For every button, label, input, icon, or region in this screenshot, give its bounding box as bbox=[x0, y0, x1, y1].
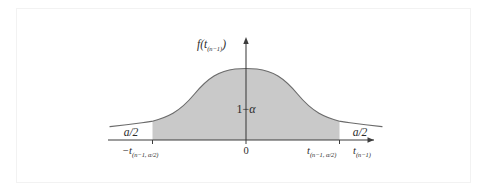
left-critical-value-label: −t(n−1, α/2) bbox=[122, 145, 159, 159]
y-axis-label-close: ) bbox=[221, 38, 226, 51]
left-critical-subscript: (n−1, α/2) bbox=[132, 151, 158, 159]
x-axis-arrow-icon bbox=[368, 137, 375, 142]
y-axis-label: f(t(n−1)) bbox=[197, 38, 226, 53]
figure-root: f(t(n−1)) t(n−1) 1−α a/2 a/2 0 −t(n−1, α… bbox=[0, 0, 487, 191]
right-critical-value-label: t(n−1, α/2) bbox=[307, 145, 336, 159]
right-tail-label: a/2 bbox=[353, 126, 368, 138]
x-axis-label-subscript: (n−1) bbox=[356, 151, 371, 159]
t-distribution-chart: f(t(n−1)) t(n−1) 1−α a/2 a/2 0 −t(n−1, α… bbox=[0, 0, 487, 191]
confidence-level-prefix: 1− bbox=[236, 102, 249, 116]
x-axis-label: t(n−1) bbox=[353, 145, 371, 159]
confidence-level-label: 1−α bbox=[236, 102, 256, 116]
y-axis-label-subscript: (n−1) bbox=[207, 45, 222, 53]
origin-tick-label: 0 bbox=[243, 145, 248, 156]
right-critical-subscript: (n−1, α/2) bbox=[310, 151, 336, 159]
y-axis-arrow-icon bbox=[243, 37, 248, 44]
confidence-level-symbol: α bbox=[249, 102, 256, 116]
left-tail-label: a/2 bbox=[124, 126, 139, 138]
